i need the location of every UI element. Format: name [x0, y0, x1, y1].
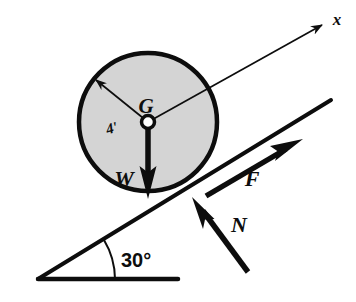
normal-force-label: N	[230, 212, 248, 237]
angle-arc	[104, 240, 115, 279]
weight-label: W	[114, 166, 135, 191]
free-body-diagram: G 4' W F N x 30°	[0, 0, 356, 302]
diagram-canvas: G 4' W F N x 30°	[0, 0, 356, 302]
x-axis-label: x	[332, 10, 342, 29]
incline-angle-label: 30°	[121, 249, 151, 271]
center-label: G	[138, 94, 153, 118]
friction-label: F	[244, 166, 260, 191]
